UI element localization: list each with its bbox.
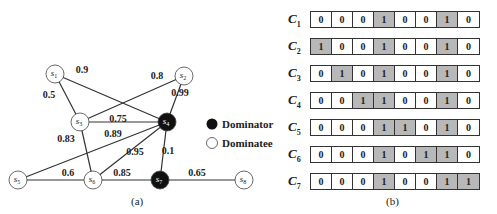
bit-cell: 1	[332, 66, 353, 81]
bit-cell: 1	[311, 39, 332, 54]
bit-cell: 1	[437, 174, 458, 189]
svg-text:Dominator: Dominator	[222, 118, 273, 130]
matrix-figure-b: C100010010C210010010C301010010C400110010…	[284, 0, 497, 214]
bit-cell: 1	[374, 66, 395, 81]
bit-cell: 0	[458, 12, 479, 27]
bit-cells: 10010010	[310, 38, 480, 55]
node-s6: s6	[84, 171, 102, 189]
bit-cell: 1	[353, 93, 374, 108]
bit-cell: 0	[416, 12, 437, 27]
node-s3: s3	[71, 113, 89, 131]
bit-cell: 0	[311, 93, 332, 108]
bit-cell: 0	[395, 147, 416, 162]
caption-a: (a)	[131, 195, 143, 207]
edge-weight-label: 0.65	[188, 167, 206, 178]
bit-cell: 0	[332, 39, 353, 54]
bit-cell: 0	[458, 39, 479, 54]
bit-cell: 0	[458, 120, 479, 135]
bit-cells: 00010110	[310, 146, 480, 163]
bit-cell: 0	[458, 66, 479, 81]
bit-cell: 0	[332, 147, 353, 162]
dominator-icon	[207, 119, 218, 130]
bit-cell: 1	[374, 120, 395, 135]
bit-cells: 00010011	[310, 173, 480, 190]
edge-weight-label: 0.1	[162, 145, 175, 156]
bit-cell: 0	[458, 147, 479, 162]
codeword-row-1: C100010010	[284, 10, 497, 28]
codeword-row-6: C600010110	[284, 145, 497, 163]
legend-dominator: Dominator	[207, 118, 274, 130]
bit-cell: 0	[353, 66, 374, 81]
codeword-label: C7	[288, 172, 308, 190]
bit-cell: 0	[311, 120, 332, 135]
edge-weight-label: 0.9	[76, 64, 89, 75]
graph-figure-a: 0.90.50.80.990.750.890.830.950.10.60.850…	[0, 0, 284, 214]
codeword-row-7: C700010011	[284, 172, 497, 190]
bit-cell: 0	[332, 12, 353, 27]
bit-cell: 1	[458, 174, 479, 189]
codeword-row-4: C400110010	[284, 91, 497, 109]
bit-cell: 0	[353, 174, 374, 189]
codeword-label: C1	[288, 10, 308, 28]
node-s7: s7	[151, 171, 169, 189]
codeword-label: C6	[288, 145, 308, 163]
bit-cells: 00010010	[310, 11, 480, 28]
bit-cell: 0	[332, 93, 353, 108]
bit-cell: 1	[395, 120, 416, 135]
bit-cell: 0	[311, 174, 332, 189]
bit-cell: 1	[374, 174, 395, 189]
codeword-label: C5	[288, 118, 308, 136]
codeword-label: C2	[288, 37, 308, 55]
node-s4: s4	[158, 113, 176, 131]
bit-cell: 1	[437, 93, 458, 108]
bit-cells: 01010010	[310, 65, 480, 82]
bit-cell: 1	[374, 39, 395, 54]
edge-weight-label: 0.6	[62, 167, 75, 178]
bit-cell: 1	[437, 147, 458, 162]
bit-cell: 0	[353, 147, 374, 162]
bit-cell: 0	[416, 174, 437, 189]
bit-cell: 0	[353, 120, 374, 135]
svg-text:Dominatee: Dominatee	[222, 137, 273, 149]
bit-cell: 0	[311, 66, 332, 81]
bit-cell: 0	[332, 120, 353, 135]
bit-cell: 0	[332, 174, 353, 189]
bit-cell: 0	[458, 93, 479, 108]
bit-cell: 1	[416, 147, 437, 162]
bit-cell: 0	[416, 39, 437, 54]
edge-weight-label: 0.85	[113, 167, 131, 178]
codeword-label: C4	[288, 91, 308, 109]
edge-weight-label: 0.83	[57, 133, 75, 144]
bit-cell: 0	[353, 12, 374, 27]
bit-cell: 0	[416, 120, 437, 135]
bit-cell: 1	[437, 66, 458, 81]
bit-cell: 1	[374, 147, 395, 162]
bit-cell: 0	[311, 12, 332, 27]
bit-cells: 00011010	[310, 119, 480, 136]
bit-cell: 1	[437, 39, 458, 54]
codeword-row-2: C210010010	[284, 37, 497, 55]
edge-weight-label: 0.99	[171, 87, 189, 98]
bit-cell: 0	[395, 39, 416, 54]
bit-cells: 00110010	[310, 92, 480, 109]
dominatee-icon	[207, 138, 218, 149]
bit-cell: 0	[416, 93, 437, 108]
codeword-row-5: C500011010	[284, 118, 497, 136]
node-s2: s2	[175, 67, 193, 85]
bit-cell: 0	[311, 147, 332, 162]
edge-weight-label: 0.8	[151, 70, 164, 81]
legend-dominatee: Dominatee	[207, 137, 273, 149]
bit-cell: 0	[395, 66, 416, 81]
bit-cell: 1	[374, 93, 395, 108]
codeword-row-3: C301010010	[284, 64, 497, 82]
edge-weight-label: 0.95	[126, 146, 144, 157]
codeword-label: C3	[288, 64, 308, 82]
caption-b: (b)	[386, 195, 399, 207]
bit-cell: 0	[353, 39, 374, 54]
edge-weight-label: 0.89	[104, 128, 122, 139]
bit-cell: 0	[395, 12, 416, 27]
bit-cell: 1	[437, 12, 458, 27]
node-s1: s1	[46, 65, 64, 83]
edge-weight-label: 0.75	[109, 113, 127, 124]
edge-weight-label: 0.5	[43, 89, 56, 100]
